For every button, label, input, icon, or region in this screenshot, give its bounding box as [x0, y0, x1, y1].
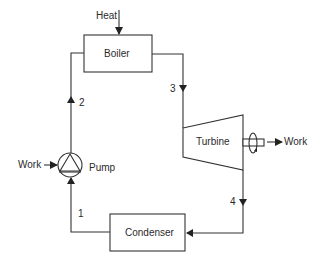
- state-3-label: 3: [170, 84, 176, 94]
- state-4-label: 4: [230, 197, 236, 207]
- condenser-label: Condenser: [125, 228, 174, 238]
- turbine-shaft: [243, 139, 264, 146]
- pump-circle: [58, 153, 82, 177]
- state-3-arrow: [179, 85, 187, 92]
- pipe-boiler-to-turbine: [152, 54, 183, 128]
- heat-label: Heat: [96, 11, 117, 21]
- state-2-arrow: [67, 96, 75, 103]
- state-4-arrow: [239, 199, 247, 206]
- boiler-label: Boiler: [104, 49, 130, 59]
- work-out-label: Work: [284, 137, 307, 147]
- state-1-label: 1: [78, 209, 84, 219]
- rankine-cycle-diagram: [0, 0, 318, 265]
- state-2-label: 2: [79, 98, 85, 108]
- work-in-label: Work: [18, 160, 41, 170]
- pump-label: Pump: [89, 163, 115, 173]
- pipe-condenser-to-pump: [71, 178, 110, 232]
- turbine-label: Turbine: [196, 137, 230, 147]
